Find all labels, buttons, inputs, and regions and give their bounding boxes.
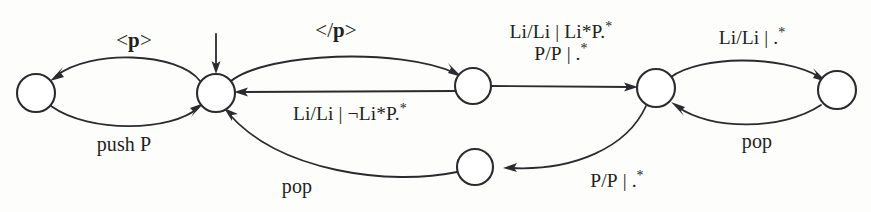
- edge-label-pop-right: pop: [742, 130, 772, 152]
- edge-label-li-star-p: Li/Li | Li*P.* P/P | .*: [510, 21, 613, 65]
- edge-not-li-group: [234, 88, 455, 97]
- edge-open-p-group: [50, 57, 200, 81]
- edge-label-li-star-p-line1: Li/Li | Li*P.*: [510, 21, 613, 43]
- edge-label-close-p: </p>: [315, 19, 357, 43]
- state-right-hub[interactable]: [637, 69, 675, 107]
- edge-p-any-group: [503, 106, 646, 172]
- edge-not-li-line: [242, 91, 455, 92]
- state-bottom[interactable]: [457, 149, 493, 185]
- state-diagram-figure: <p> push P </p> Li/Li | ¬Li*P.* Li/Li | …: [0, 0, 871, 212]
- edge-label-pop-bottom: pop: [282, 175, 312, 197]
- edge-pop-right-arc: [678, 105, 821, 124]
- edge-p-any-arc: [511, 106, 646, 168]
- edge-label-li-star-p-line2: P/P | .*: [510, 43, 613, 65]
- edge-li-any-group: [671, 60, 827, 82]
- edge-push-p-group: [51, 103, 204, 126]
- edge-push-p-arc: [51, 106, 198, 126]
- start-arrow-group: [212, 34, 221, 74]
- edge-pop-right-arrowhead: [671, 102, 685, 116]
- edge-label-push-p: push P: [97, 133, 152, 155]
- state-middle[interactable]: [455, 68, 491, 104]
- edge-pop-right-group: [671, 102, 821, 124]
- state-start[interactable]: [197, 74, 235, 112]
- edge-close-p-arc: [231, 57, 455, 81]
- edge-label-p-any: P/P | .*: [590, 170, 643, 192]
- edge-open-p-arrowhead: [50, 67, 64, 81]
- edge-label-li-any: Li/Li | .*: [719, 27, 786, 49]
- edge-label-not-li-star-p: Li/Li | ¬Li*P.*: [293, 103, 407, 125]
- state-left[interactable]: [17, 74, 55, 112]
- edge-close-p-group: [231, 57, 462, 81]
- edge-open-p-arc: [56, 57, 200, 81]
- edge-li-star-p-group: [491, 83, 638, 92]
- edge-li-any-arc: [671, 60, 820, 77]
- edge-label-open-p: <p>: [116, 29, 152, 53]
- state-far-right[interactable]: [818, 71, 856, 109]
- edge-li-star-p-line: [491, 86, 630, 87]
